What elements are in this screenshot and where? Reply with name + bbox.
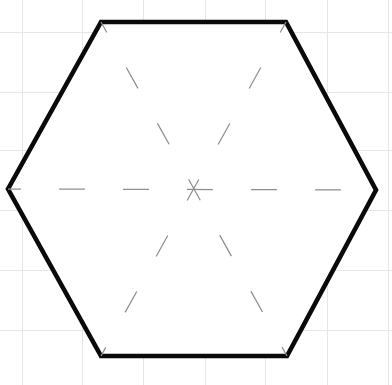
hexagon-figure-svg <box>0 0 392 385</box>
hexagon-figure-canvas <box>0 0 392 385</box>
